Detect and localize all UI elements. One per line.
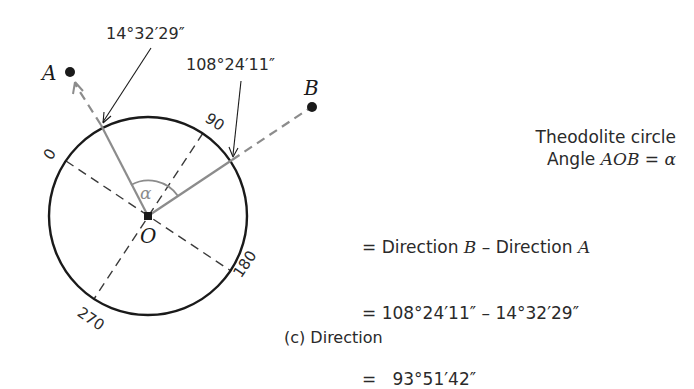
- explanation-angle-line: Angle AOB = α: [536, 148, 676, 170]
- point-O-marker: [144, 212, 152, 220]
- explanation-title: Theodolite circle: [536, 126, 676, 148]
- graduation-90: 90: [202, 109, 228, 135]
- direction-A-ray: [75, 84, 148, 216]
- alpha-symbol: α: [665, 149, 676, 169]
- point-B-marker: [307, 102, 317, 112]
- point-A-marker: [65, 67, 75, 77]
- graduation-180: 180: [229, 247, 260, 281]
- explanation-equations: = Direction B – Direction A = 108°24′11″…: [362, 192, 590, 389]
- direction-A-symbol: A: [578, 237, 590, 257]
- reading-direction-A: 14°32′29″: [106, 24, 185, 43]
- equation-result: = 93°51′42″: [362, 368, 590, 389]
- angle-aob: AOB: [601, 149, 640, 169]
- angle-word: Angle: [547, 149, 601, 169]
- reading-leader-B: [229, 81, 241, 157]
- angle-alpha-arc: [131, 181, 178, 196]
- label-alpha: α: [140, 183, 152, 203]
- label-O: O: [140, 224, 156, 248]
- direction-word-1: = Direction: [362, 237, 464, 257]
- equation-direction-difference: = Direction B – Direction A: [362, 236, 590, 258]
- direction-B-ray: [148, 108, 310, 216]
- label-A: A: [40, 61, 56, 85]
- reading-direction-B: 108°24′11″: [186, 55, 275, 74]
- reading-leader-A: [103, 48, 151, 123]
- graduation-270: 270: [74, 303, 108, 334]
- direction-B-symbol: B: [464, 237, 477, 257]
- label-B: B: [303, 76, 319, 100]
- equation-values: = 108°24′11″ – 14°32′29″: [362, 302, 590, 324]
- explanation-panel: Theodolite circle Angle AOB = α: [536, 126, 676, 170]
- direction-word-2: – Direction: [476, 237, 578, 257]
- figure-caption: (c) Direction: [284, 328, 383, 347]
- equals-sign: =: [639, 149, 664, 169]
- graduation-0: 0: [40, 145, 60, 163]
